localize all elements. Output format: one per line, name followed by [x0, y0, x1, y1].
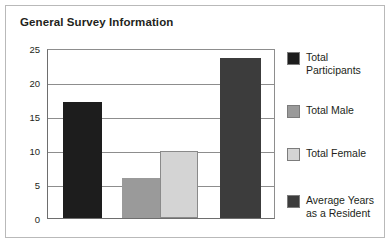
legend-item[interactable]: Total Male	[287, 104, 354, 118]
chart-card: General Survey Information 0510152025 To…	[5, 5, 385, 238]
legend-swatch-icon	[287, 105, 300, 118]
legend-item-label: Total Male	[306, 104, 354, 117]
y-axis-tick-label: 10	[10, 146, 40, 157]
y-axis-tick-label: 5	[10, 180, 40, 191]
legend-swatch-icon	[287, 195, 300, 208]
plot-wrapper: 0510152025	[47, 49, 275, 219]
legend-swatch-icon	[287, 52, 300, 65]
plot-area	[47, 49, 275, 219]
legend-item-label: Total Female	[306, 147, 366, 160]
bar-total-female	[160, 151, 198, 218]
y-axis-tick-label: 20	[10, 78, 40, 89]
y-axis-tick-label: 15	[10, 112, 40, 123]
legend-item-label: Average Years as a Resident	[306, 194, 374, 219]
bar-average-years-as-a-resident	[220, 58, 261, 218]
legend-item[interactable]: Total Participants	[287, 51, 361, 76]
y-axis-tick-label: 25	[10, 44, 40, 55]
page-title: General Survey Information	[20, 16, 173, 28]
legend-swatch-icon	[287, 148, 300, 161]
y-axis-tick-label: 0	[10, 214, 40, 225]
legend-item[interactable]: Total Female	[287, 147, 366, 161]
bar-total-male	[122, 178, 160, 218]
legend-item-label: Total Participants	[306, 51, 361, 76]
legend-item[interactable]: Average Years as a Resident	[287, 194, 374, 219]
chart-screenshot: General Survey Information 0510152025 To…	[0, 0, 392, 252]
bar-total-participants	[63, 102, 102, 218]
